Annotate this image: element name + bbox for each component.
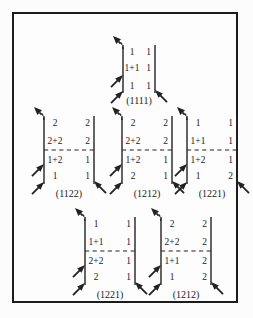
segment-label-left-0: 1 (196, 118, 201, 128)
segment-label-left-0: 2 (170, 219, 175, 229)
scattering-diagram-1221-a: 111+111+2112(1221) (173, 104, 253, 203)
segment-label-right-2: 1 (126, 256, 131, 266)
diagram-canvas: 111+112+2121(1221) (71, 205, 151, 304)
segment-label-right-3: 1 (85, 171, 90, 181)
segment-label-right-2: 1 (85, 155, 90, 165)
segment-label-right-2: 2 (202, 256, 207, 266)
scattering-diagram-1122: 222+221+2111(1122) (30, 104, 110, 203)
segment-label-left-0: 2 (131, 118, 136, 128)
segment-label-left-3: 2 (131, 171, 136, 181)
scattering-diagram-1212-b: 222+221+1212(1212) (147, 205, 227, 304)
out-arrow-top-left-shaft (118, 113, 120, 115)
segment-label-right-3: 2 (202, 272, 207, 282)
segment-label-right-0: 1 (146, 47, 151, 57)
segment-label-right-0: 1 (228, 118, 233, 128)
segment-label-left-3: 1 (53, 171, 58, 181)
segment-label-left-3: 1 (196, 171, 201, 181)
segment-label-right-0: 2 (202, 219, 207, 229)
segment-label-right-3: 2 (228, 171, 233, 181)
segment-label-left-2: 2+2 (89, 256, 104, 266)
out-arrow-top-left-shaft (119, 42, 121, 44)
out-arrow-top-left-shaft (157, 214, 159, 216)
segment-label-right-0: 2 (163, 118, 168, 128)
segment-label-left-0: 1 (130, 47, 135, 57)
figure-page: 111+1111(1111) 222+221+2111(1122) 222+22… (0, 0, 253, 318)
figure-border-frame: 111+1111(1111) 222+221+2111(1122) 222+22… (12, 12, 238, 303)
segment-label-left-2: 1+1 (165, 256, 180, 266)
segment-label-right-3: 1 (163, 171, 168, 181)
diagram-label: (1212) (134, 188, 161, 200)
segment-label-right-2: 1 (228, 155, 233, 165)
segment-label-left-1: 1+1 (191, 136, 206, 146)
diagram-label: (1212) (173, 289, 200, 301)
segment-label-right-1: 1 (146, 63, 151, 73)
segment-label-right-1: 2 (163, 136, 168, 146)
segment-label-right-2: 1 (146, 81, 151, 91)
segment-label-left-1: 1+1 (125, 63, 140, 73)
scattering-diagram-1221-b: 111+112+2121(1221) (71, 205, 151, 304)
segment-label-left-3: 2 (94, 272, 99, 282)
segment-label-left-2: 1 (130, 81, 135, 91)
segment-label-left-2: 1+2 (126, 155, 141, 165)
out-arrow-top-left-shaft (40, 113, 42, 115)
segment-label-right-1: 1 (126, 237, 131, 247)
segment-label-left-1: 2+2 (48, 136, 63, 146)
segment-label-left-0: 2 (53, 118, 58, 128)
segment-label-left-1: 1+1 (89, 237, 104, 247)
segment-label-right-0: 1 (126, 219, 131, 229)
diagram-canvas: 111+111+2112(1221) (173, 104, 253, 203)
segment-label-right-2: 1 (163, 155, 168, 165)
diagram-label: (1221) (199, 188, 226, 200)
segment-label-left-1: 2+2 (165, 237, 180, 247)
segment-label-left-1: 2+2 (126, 136, 141, 146)
diagram-canvas: 222+221+1212(1212) (147, 205, 227, 304)
segment-label-right-3: 1 (126, 272, 131, 282)
diagram-canvas: 222+221+2111(1122) (30, 104, 110, 203)
segment-label-right-1: 1 (228, 136, 233, 146)
segment-label-right-1: 2 (202, 237, 207, 247)
segment-label-left-0: 1 (94, 219, 99, 229)
segment-label-left-2: 1+2 (48, 155, 63, 165)
segment-label-left-3: 1 (170, 272, 175, 282)
diagram-label: (1122) (56, 188, 82, 200)
segment-label-right-1: 2 (85, 136, 90, 146)
out-arrow-top-left-shaft (183, 113, 185, 115)
diagram-label: (1221) (97, 289, 124, 301)
out-arrow-top-left-shaft (81, 214, 83, 216)
segment-label-left-2: 1+2 (191, 155, 206, 165)
segment-label-right-0: 2 (85, 118, 90, 128)
